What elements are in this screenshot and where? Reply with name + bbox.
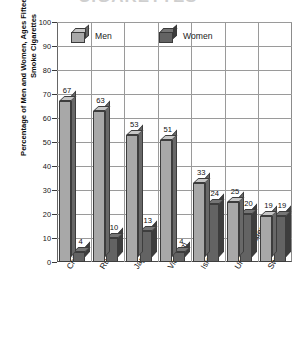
- gridline: [57, 94, 292, 95]
- y-axis-tick-label: 40: [43, 162, 51, 171]
- y-axis-tick-label: 100: [39, 18, 51, 27]
- y-axis-tick: [52, 238, 57, 239]
- bar-value-label: 53: [130, 120, 138, 129]
- y-axis-tick-label: 70: [43, 90, 51, 99]
- bar-value-label: 67: [63, 86, 71, 95]
- cropped-title-text: CIGARETTES: [78, 0, 198, 7]
- y-axis-title: Percentage of Men and Women, Ages Fiftee…: [19, 0, 39, 160]
- bar-value-label: 63: [96, 96, 104, 105]
- plot-area: 0102030405060708090100 Men Women 6746310…: [57, 22, 292, 262]
- y-axis-tick: [52, 142, 57, 143]
- bar-value-label: 10: [110, 223, 118, 232]
- legend-item-women: Women: [159, 28, 212, 43]
- bar-men-israel: [193, 183, 205, 262]
- gridline: [57, 46, 292, 47]
- bar-front-face: [93, 111, 105, 262]
- y-axis-tick-label: 60: [43, 114, 51, 123]
- bar-value-label: 20: [244, 199, 252, 208]
- column-divider: [191, 22, 192, 262]
- y-axis-tick: [52, 22, 57, 23]
- bar-front-face: [126, 135, 138, 262]
- bar-front-face: [73, 252, 85, 262]
- y-axis-tick-label: 80: [43, 66, 51, 75]
- bar-value-label: 13: [143, 216, 151, 225]
- gridline: [57, 22, 292, 23]
- legend-item-men: Men: [71, 28, 112, 43]
- bar-men-japan: [126, 135, 138, 262]
- bar-side-face: [71, 91, 76, 257]
- bar-men-russia: [93, 111, 105, 262]
- bar-value-label: 24: [211, 189, 219, 198]
- y-axis-tick-label: 30: [43, 186, 51, 195]
- y-axis-tick: [52, 94, 57, 95]
- legend-swatch-men-icon: [71, 28, 89, 43]
- category-labels: ChinaRussiaJapanVietnamIsraelUnited Stat…: [57, 266, 292, 343]
- column-divider: [124, 22, 125, 262]
- bar-value-label: 19: [264, 201, 272, 210]
- column-divider: [225, 22, 226, 262]
- bar-men-united-states: [227, 202, 239, 262]
- bar-front-face: [260, 216, 272, 262]
- bar-value-label: 19: [278, 201, 286, 210]
- legend-swatch-women-icon: [159, 28, 177, 43]
- column-divider: [158, 22, 159, 262]
- y-axis-tick: [52, 46, 57, 47]
- bar-side-face: [105, 100, 110, 257]
- y-axis-tick-label: 20: [43, 210, 51, 219]
- legend-label-men: Men: [95, 31, 112, 41]
- y-axis-tick: [52, 262, 57, 263]
- y-axis-tick-label: 0: [47, 258, 51, 267]
- y-axis-tick: [52, 166, 57, 167]
- y-axis-tick-label: 50: [43, 138, 51, 147]
- gridline: [57, 70, 292, 71]
- bar-front-face: [59, 101, 71, 262]
- y-axis-tick: [52, 214, 57, 215]
- y-axis-tick: [52, 190, 57, 191]
- bar-value-label: 33: [197, 168, 205, 177]
- bar-side-face: [138, 124, 143, 257]
- bar-front-face: [193, 183, 205, 262]
- column-divider: [91, 22, 92, 262]
- legend-label-women: Women: [183, 31, 212, 41]
- bar-side-face: [172, 129, 177, 257]
- bar-value-label: 51: [164, 125, 172, 134]
- bar-men-sweden: [260, 216, 272, 262]
- bar-front-face: [160, 140, 172, 262]
- y-axis-tick-label: 90: [43, 42, 51, 51]
- y-axis-tick: [52, 70, 57, 71]
- bar-side-face: [205, 172, 210, 257]
- bar-front-face: [227, 202, 239, 262]
- bar-men-china: [59, 101, 71, 262]
- y-axis-tick-label: 10: [43, 234, 51, 243]
- bar-value-label: 25: [231, 187, 239, 196]
- bar-men-vietnam: [160, 140, 172, 262]
- bar-value-label: 4: [179, 237, 183, 246]
- cropped-title: CIGARETTES: [0, 0, 303, 8]
- y-axis-tick: [52, 118, 57, 119]
- bar-value-label: 4: [78, 237, 82, 246]
- bar-women-china: [73, 252, 85, 262]
